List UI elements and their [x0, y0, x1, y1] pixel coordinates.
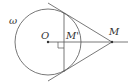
tangent-line-lower [48, 42, 112, 81]
right-angle-mark [58, 42, 64, 48]
tangent-line-upper [48, 3, 112, 42]
geometry-diagram: ω O M' M [0, 0, 134, 84]
point-M [111, 41, 113, 43]
label-omega: ω [9, 15, 17, 26]
label-O: O [41, 30, 49, 41]
label-M: M [108, 26, 120, 37]
label-M-prime: M' [65, 30, 79, 41]
point-O [47, 41, 49, 43]
